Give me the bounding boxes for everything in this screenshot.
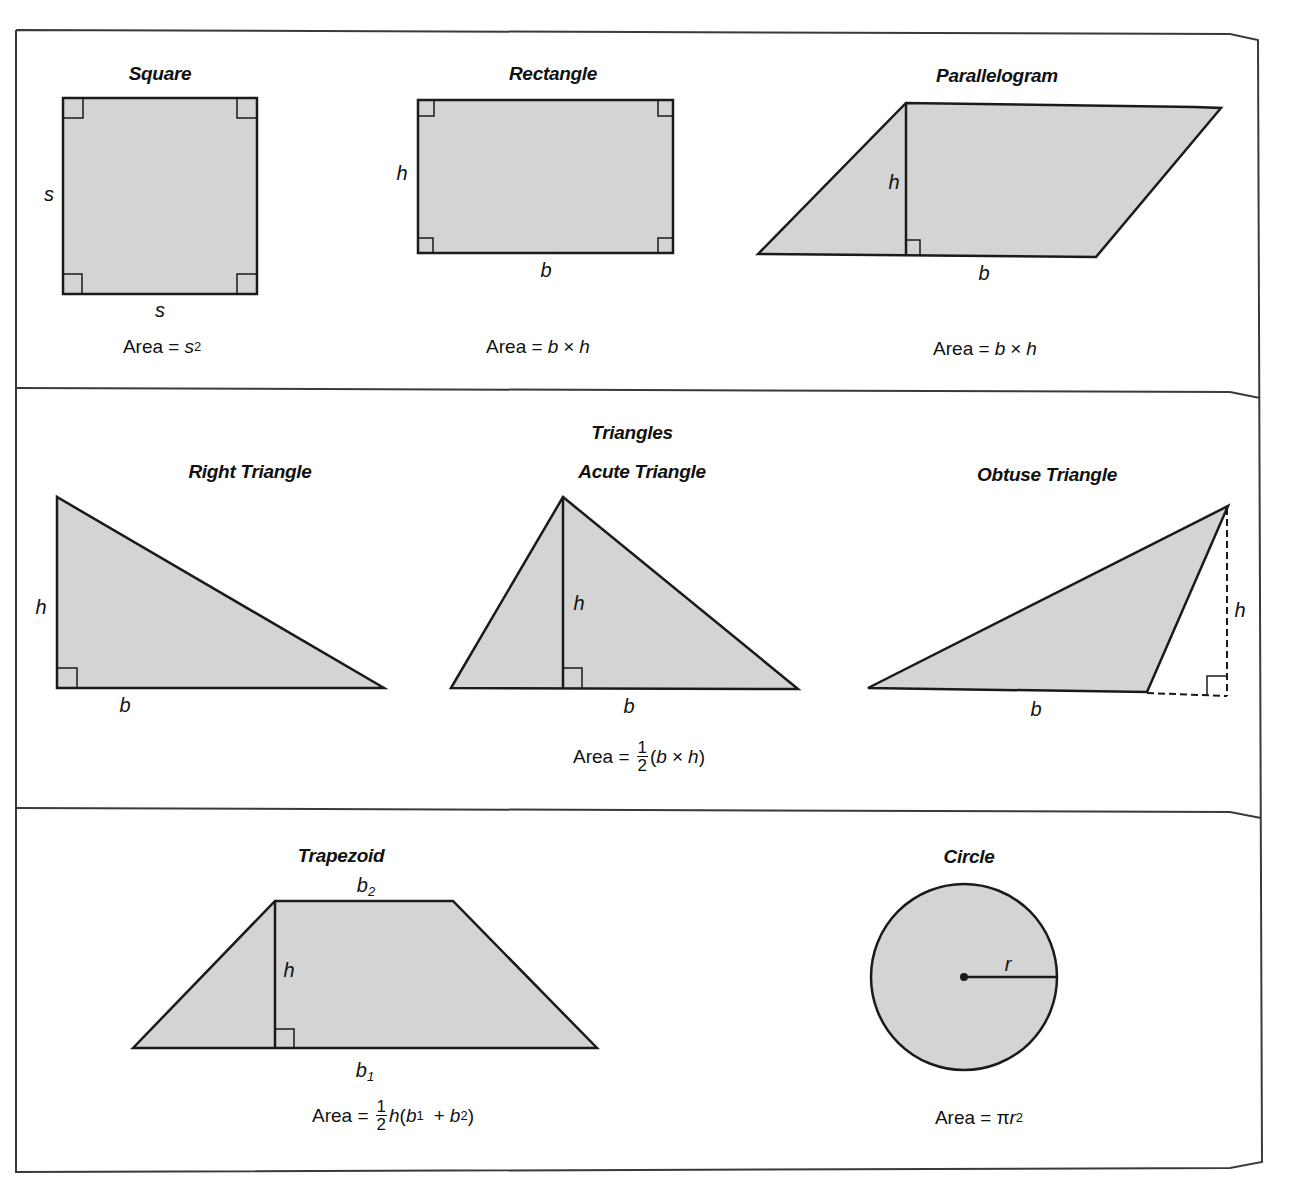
right-triangle-height-label: h bbox=[35, 596, 46, 619]
trapezoid-title: Trapezoid bbox=[298, 845, 385, 867]
formula-prefix: Area = bbox=[486, 336, 543, 358]
circle-area-formula: Area = π r2 bbox=[935, 1107, 1023, 1129]
parallelogram-height-label: h bbox=[888, 171, 899, 194]
parallelogram-area-formula: Area = b × h bbox=[933, 338, 1037, 360]
formula-variable: r bbox=[1010, 1107, 1016, 1129]
rectangle-base-label: b bbox=[540, 259, 551, 282]
formula-base: b bbox=[548, 336, 559, 358]
circle-title: Circle bbox=[943, 846, 994, 868]
triangle-area-formula: Area = 1 2 ( b × h ) bbox=[573, 739, 705, 774]
right-triangle-base-label: b bbox=[119, 694, 130, 717]
formula-height: h bbox=[688, 746, 699, 768]
obtuse-triangle-shape bbox=[868, 506, 1228, 696]
rectangle-height-label: h bbox=[396, 162, 407, 185]
rectangle-area-formula: Area = b × h bbox=[486, 336, 590, 358]
rectangle-shape bbox=[418, 100, 673, 253]
acute-triangle-shape bbox=[451, 497, 798, 689]
formula-variable: s bbox=[184, 336, 194, 358]
formula-pi: π bbox=[996, 1107, 1009, 1129]
acute-triangle-base-label: b bbox=[623, 695, 634, 718]
section-divider-2 bbox=[16, 808, 1230, 812]
triangles-heading: Triangles bbox=[591, 422, 672, 444]
formula-prefix: Area = bbox=[573, 746, 630, 768]
trapezoid-bottom-base-label: b1 bbox=[356, 1059, 374, 1082]
formula-fraction: 1 2 bbox=[376, 1098, 387, 1133]
fraction-denominator: 2 bbox=[638, 757, 647, 774]
formula-prefix: Area = bbox=[123, 336, 180, 358]
circle-shape bbox=[871, 884, 1057, 1070]
formula-plus: + bbox=[434, 1105, 445, 1127]
parallelogram-title: Parallelogram bbox=[936, 65, 1058, 87]
trapezoid-top-base-label: b2 bbox=[357, 874, 375, 897]
square-side-label-bottom: s bbox=[155, 299, 165, 322]
fraction-numerator: 1 bbox=[376, 1098, 387, 1116]
formula-fraction: 1 2 bbox=[637, 739, 648, 774]
trapezoid-area-formula: Area = 1 2 h ( b1 + b2 ) bbox=[312, 1098, 474, 1133]
square-side-label-left: s bbox=[44, 183, 54, 206]
obtuse-triangle-base-label: b bbox=[1030, 698, 1041, 721]
section-divider-1 bbox=[16, 388, 1230, 392]
acute-triangle-title: Acute Triangle bbox=[578, 461, 705, 483]
section-divider-2b bbox=[1230, 812, 1261, 818]
formula-base: b bbox=[656, 746, 667, 768]
formula-close-paren: ) bbox=[468, 1105, 474, 1127]
formula-prefix: Area = bbox=[933, 338, 990, 360]
parallelogram-base-label: b bbox=[978, 262, 989, 285]
acute-triangle-height-label: h bbox=[573, 592, 584, 615]
circle-radius-label: r bbox=[1005, 953, 1012, 976]
formula-operator: × bbox=[1010, 338, 1021, 360]
formula-base: b bbox=[995, 338, 1006, 360]
fraction-denominator: 2 bbox=[377, 1116, 386, 1133]
formula-prefix: Area = bbox=[935, 1107, 992, 1129]
trapezoid-shape bbox=[133, 901, 597, 1048]
square-area-formula: Area = s2 bbox=[123, 336, 201, 358]
square-shape bbox=[63, 98, 257, 294]
right-triangle-shape bbox=[57, 497, 384, 688]
formula-prefix: Area = bbox=[312, 1105, 369, 1127]
formula-base2: b bbox=[450, 1105, 461, 1127]
square-title: Square bbox=[129, 63, 192, 85]
formula-height: h bbox=[579, 336, 590, 358]
formula-height: h bbox=[1026, 338, 1037, 360]
formula-base1: b bbox=[406, 1105, 417, 1127]
obtuse-triangle-height-label: h bbox=[1234, 599, 1245, 622]
parallelogram-shape bbox=[758, 103, 1221, 257]
formula-operator: × bbox=[563, 336, 574, 358]
formula-height: h bbox=[389, 1105, 400, 1127]
rectangle-title: Rectangle bbox=[509, 63, 597, 85]
formula-close-paren: ) bbox=[699, 746, 705, 768]
geometry-diagram bbox=[0, 0, 1294, 1186]
right-triangle-title: Right Triangle bbox=[188, 461, 311, 483]
section-divider-1b bbox=[1230, 392, 1260, 398]
obtuse-triangle-title: Obtuse Triangle bbox=[977, 464, 1117, 486]
fraction-numerator: 1 bbox=[637, 739, 648, 757]
formula-operator: × bbox=[672, 746, 683, 768]
trapezoid-height-label: h bbox=[283, 959, 294, 982]
